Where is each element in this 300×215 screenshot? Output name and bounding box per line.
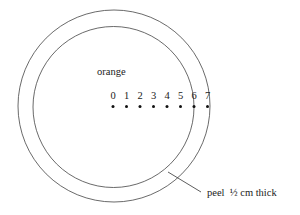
scale-point-4 bbox=[166, 105, 169, 108]
scale-point-0 bbox=[112, 105, 115, 108]
scale-point-3 bbox=[152, 105, 155, 108]
radius-scale: 01234567 bbox=[110, 90, 210, 108]
scale-label-7: 7 bbox=[205, 90, 210, 101]
orange-diagram: orange 01234567 peel ½ cm thick bbox=[0, 0, 300, 215]
scale-point-6 bbox=[193, 105, 196, 108]
scale-point-1 bbox=[125, 105, 128, 108]
orange-label: orange bbox=[97, 66, 126, 77]
scale-label-3: 3 bbox=[151, 90, 156, 101]
scale-point-7 bbox=[206, 105, 209, 108]
scale-point-2 bbox=[139, 105, 142, 108]
scale-label-4: 4 bbox=[164, 90, 170, 101]
scale-label-1: 1 bbox=[124, 90, 129, 101]
scale-label-0: 0 bbox=[110, 90, 115, 101]
peel-label: peel ½ cm thick bbox=[207, 187, 277, 198]
scale-label-5: 5 bbox=[178, 90, 183, 101]
scale-label-2: 2 bbox=[137, 90, 142, 101]
scale-point-5 bbox=[179, 105, 182, 108]
scale-label-6: 6 bbox=[191, 90, 196, 101]
